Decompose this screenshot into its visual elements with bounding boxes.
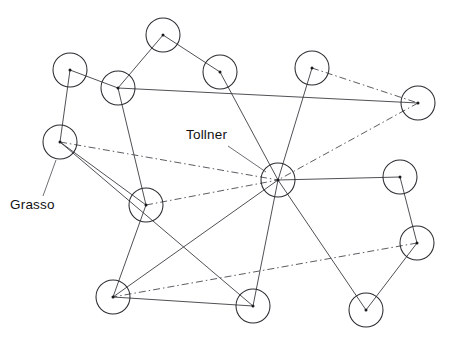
network-diagram: TollnerGrasso — [0, 0, 454, 341]
node-bottom-right[interactable] — [349, 293, 383, 327]
node-upper-mid-left[interactable] — [101, 71, 135, 105]
node-center-dot — [365, 309, 368, 312]
node-bottom-center[interactable] — [236, 289, 270, 323]
node-top-right[interactable] — [295, 51, 329, 85]
node-center-dot — [69, 69, 72, 72]
node-far-right-upper[interactable] — [401, 86, 435, 120]
graph-edge — [60, 142, 253, 306]
node-center-dot — [145, 204, 148, 207]
node-center-dot — [219, 71, 222, 74]
node-center-dot — [311, 67, 314, 70]
graph-edge — [113, 243, 417, 297]
node-right-mid[interactable] — [383, 160, 417, 194]
graph-edge — [278, 177, 400, 180]
label-grasso: Grasso — [10, 197, 55, 212]
node-center-dot — [416, 242, 419, 245]
node-top-center[interactable] — [146, 18, 180, 52]
node-mid-left[interactable] — [129, 188, 163, 222]
graph-edge — [113, 297, 253, 306]
leader-line-tollner — [228, 146, 266, 172]
node-center-dot — [162, 34, 165, 37]
graph-edge — [278, 180, 366, 310]
graph-edge — [146, 180, 278, 205]
graph-edge — [118, 88, 418, 103]
node-right-lower[interactable] — [400, 226, 434, 260]
label-tollner: Tollner — [186, 127, 227, 142]
node-grasso[interactable] — [43, 125, 77, 159]
node-center-dot — [277, 179, 280, 182]
graph-edge — [253, 180, 278, 306]
node-center-dot — [59, 141, 62, 144]
node-top-right-inner[interactable] — [203, 55, 237, 89]
graph-edge — [60, 142, 278, 180]
node-center-dot — [399, 176, 402, 179]
node-center-dot — [417, 102, 420, 105]
node-center-dot — [252, 305, 255, 308]
node-center-dot — [112, 296, 115, 299]
graph-canvas: TollnerGrasso — [0, 0, 454, 341]
node-center-dot — [117, 87, 120, 90]
leader-line-grasso — [43, 160, 56, 196]
node-bottom-left[interactable] — [96, 280, 130, 314]
node-tollner-hub[interactable] — [261, 163, 295, 197]
node-top-left[interactable] — [53, 53, 87, 87]
graph-edge — [220, 72, 278, 180]
graph-edge — [278, 68, 312, 180]
